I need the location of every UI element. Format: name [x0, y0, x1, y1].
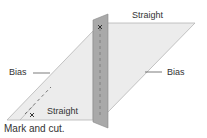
straight-bottom-label: Straight: [47, 107, 78, 116]
bias-right-label: Bias: [167, 68, 185, 77]
seam-strip: [93, 14, 108, 128]
caption: Mark and cut.: [4, 124, 65, 134]
bias-left-label: Bias: [9, 68, 27, 77]
straight-top-label: Straight: [132, 11, 163, 20]
bias-strip-diagram: Straight Straight Bias Bias Mark and cut…: [0, 0, 207, 138]
